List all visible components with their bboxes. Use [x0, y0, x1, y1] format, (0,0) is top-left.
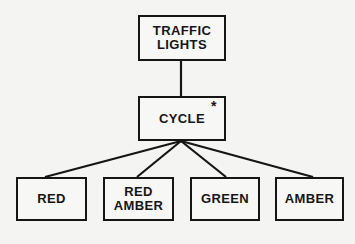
node-red-amber: RED AMBER — [103, 177, 174, 221]
node-label-line: RED — [37, 192, 66, 206]
node-label-line: GREEN — [201, 192, 249, 206]
node-red: RED — [16, 177, 87, 221]
node-label-line: AMBER — [114, 199, 164, 213]
node-green: GREEN — [190, 177, 260, 221]
node-label-line: RED — [124, 185, 153, 199]
node-label-line: TRAFFIC — [153, 24, 211, 38]
node-label-line: LIGHTS — [157, 38, 207, 52]
node-amber: AMBER — [275, 177, 344, 221]
structure-diagram: TRAFFIC LIGHTS CYCLE * RED RED AMBER GRE… — [0, 0, 355, 244]
node-label-line: AMBER — [285, 192, 335, 206]
iteration-marker-icon: * — [211, 99, 216, 113]
node-label-line: CYCLE — [159, 112, 205, 126]
edge-cycle-amber — [181, 141, 313, 177]
node-traffic-lights: TRAFFIC LIGHTS — [138, 15, 226, 61]
